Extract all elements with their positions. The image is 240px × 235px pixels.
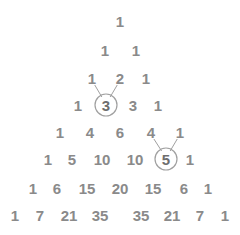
triangle-number: 1	[56, 125, 64, 140]
triangle-number: 6	[53, 181, 61, 196]
triangle-number: 6	[180, 181, 188, 196]
triangle-number: 21	[61, 208, 78, 223]
triangle-number: 1	[116, 14, 124, 29]
triangle-number: 1	[132, 43, 140, 58]
triangle-number: 1	[176, 125, 184, 140]
triangle-number: 1	[154, 98, 162, 113]
triangle-number: 15	[145, 181, 162, 196]
triangle-number: 35	[92, 208, 109, 223]
triangle-number: 7	[36, 208, 44, 223]
highlighted-number: 5	[162, 152, 170, 167]
triangle-number: 4	[86, 125, 94, 140]
triangle-number: 1	[29, 181, 37, 196]
connector-line	[154, 139, 162, 151]
pascals-triangle-diagram: 1111211331146411510105116152015611721353…	[0, 0, 240, 235]
triangle-number: 5	[68, 152, 76, 167]
triangle-number: 20	[112, 181, 129, 196]
triangle-number: 6	[116, 125, 124, 140]
triangle-number: 1	[88, 71, 96, 86]
connector-lines	[0, 0, 240, 235]
triangle-number: 35	[133, 208, 150, 223]
triangle-number: 1	[44, 152, 52, 167]
triangle-number: 15	[79, 181, 96, 196]
triangle-number: 1	[74, 98, 82, 113]
triangle-number: 10	[127, 152, 144, 167]
connector-line	[110, 85, 117, 97]
triangle-number: 1	[204, 181, 212, 196]
triangle-number: 4	[147, 125, 155, 140]
triangle-number: 1	[101, 43, 109, 58]
connector-line	[95, 85, 102, 97]
triangle-number: 1	[11, 208, 19, 223]
connector-line	[170, 139, 177, 151]
triangle-number: 3	[129, 98, 137, 113]
triangle-number: 7	[196, 208, 204, 223]
triangle-number: 2	[116, 71, 124, 86]
triangle-number: 1	[142, 71, 150, 86]
highlighted-number: 3	[102, 98, 110, 113]
triangle-number: 1	[186, 152, 194, 167]
triangle-number: 10	[94, 152, 111, 167]
triangle-number: 1	[221, 208, 229, 223]
triangle-number: 21	[164, 208, 181, 223]
